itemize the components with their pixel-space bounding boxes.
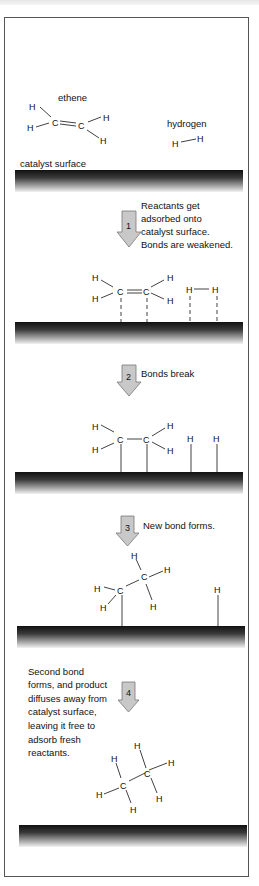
step-1-description: Reactants get adsorbed onto catalyst sur… (141, 200, 233, 250)
step-4-description: Second bond forms, and product diffuses … (28, 666, 110, 758)
step-2-description: Bonds break (141, 368, 195, 379)
atom-h: H (214, 585, 221, 595)
step-4: Second bond forms, and product diffuses … (19, 666, 247, 847)
atom-h: H (27, 123, 34, 133)
atom-h: H (29, 102, 36, 112)
step-1: 1 Reactants get adsorbed onto catalyst s… (15, 200, 243, 344)
atom-h: H (131, 551, 138, 561)
atom-h: H (92, 294, 99, 304)
atom-h: H (134, 741, 141, 751)
atom-h: H (167, 446, 174, 456)
ethene-label: ethene (58, 92, 87, 103)
catalyst-surface (17, 626, 245, 648)
atom-c: C (117, 435, 124, 445)
stage-initial: ethene H H C C H H hydrogen H H catalyst… (15, 92, 243, 192)
atom-h: H (167, 296, 174, 306)
atom-c: C (143, 287, 150, 297)
atom-h: H (96, 790, 103, 800)
atom-h: H (156, 794, 163, 804)
hydrogen-molecule: H H (172, 134, 204, 149)
atom-h: H (213, 434, 220, 444)
atom-h: H (100, 136, 107, 146)
catalyst-surface (15, 472, 243, 494)
step-3-description: New bond forms. (143, 520, 215, 531)
catalyst-surface-label: catalyst surface (20, 158, 86, 169)
hydrogen-label: hydrogen (167, 118, 207, 129)
atom-h: H (92, 273, 99, 283)
atom-h: H (94, 584, 101, 594)
step-number: 4 (126, 688, 131, 698)
atom-c: C (141, 572, 148, 582)
catalytic-hydrogenation-diagram: ethene H H C C H H hydrogen H H catalyst… (0, 0, 259, 886)
atom-c: C (117, 287, 124, 297)
atom-h: H (172, 139, 179, 149)
step-2: 2 Bonds break H H C C H H H H (15, 365, 243, 494)
dissociated-atoms (101, 425, 217, 472)
atom-h: H (212, 285, 219, 295)
atom-h: H (103, 113, 110, 123)
step-number: 2 (126, 372, 131, 382)
step-number: 1 (126, 221, 131, 231)
down-arrow-icon: 2 (117, 365, 141, 396)
atom-c: C (143, 435, 150, 445)
down-arrow-icon: 3 (116, 516, 139, 546)
atom-h: H (150, 602, 157, 612)
atom-h: H (111, 754, 118, 764)
atom-c: C (52, 118, 59, 128)
catalyst-surface (19, 825, 247, 847)
atom-h: H (167, 273, 174, 283)
atom-h: H (92, 445, 99, 455)
atom-h: H (168, 758, 175, 768)
step-number: 3 (125, 523, 130, 533)
atom-h: H (92, 422, 99, 432)
down-arrow-icon: 1 (117, 211, 141, 247)
atom-c: C (78, 121, 85, 131)
catalyst-surface (15, 170, 243, 192)
atom-h: H (164, 565, 171, 575)
atom-h: H (186, 285, 193, 295)
step-3: 3 New bond forms. H C H H C H H H (17, 516, 245, 648)
atom-h: H (130, 805, 137, 815)
atom-c: C (120, 781, 127, 791)
atom-h: H (187, 434, 194, 444)
atom-h: H (167, 421, 174, 431)
atom-c: C (117, 586, 124, 596)
down-arrow-icon: 4 (118, 682, 139, 712)
ethene-molecule (36, 107, 101, 138)
atom-c: C (144, 769, 151, 779)
atom-h: H (197, 134, 204, 144)
catalyst-surface (15, 322, 243, 344)
atom-h: H (100, 603, 107, 613)
